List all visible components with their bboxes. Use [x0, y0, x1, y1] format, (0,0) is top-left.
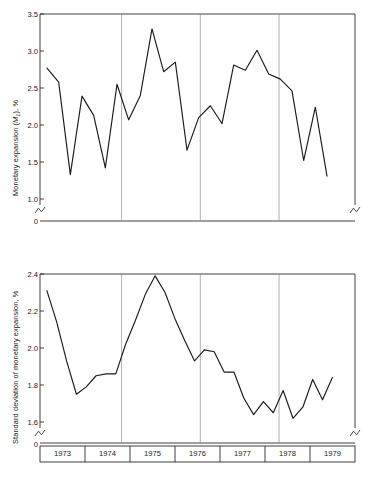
- chart-panel-standard-deviation: Standard deviation of monetary expansion…: [0, 245, 373, 483]
- data-line-standard-deviation: [47, 276, 332, 418]
- yticks-bottom: [40, 274, 44, 422]
- xtick-year-1976: 1976: [175, 449, 220, 458]
- xtick-year-1977: 1977: [220, 449, 265, 458]
- gridlines-bottom: [122, 274, 280, 443]
- plot-area-bottom: [0, 245, 373, 483]
- gridlines-top: [122, 14, 280, 221]
- plot-area-top: [0, 0, 373, 245]
- chart-panel-monetary-expansion: Monetary expansion (M1), % 3.5 3.0 2.5 2…: [0, 0, 373, 245]
- data-line-monetary-expansion: [47, 29, 327, 176]
- xtick-year-1975: 1975: [130, 449, 175, 458]
- xtick-year-1973: 1973: [40, 449, 85, 458]
- yticks-top: [40, 14, 44, 199]
- xtick-year-1978: 1978: [265, 449, 310, 458]
- xtick-year-1974: 1974: [85, 449, 130, 458]
- figure-monetary-expansion: Monetary expansion (M1), % 3.5 3.0 2.5 2…: [0, 0, 373, 483]
- xtick-year-1979: 1979: [310, 449, 355, 458]
